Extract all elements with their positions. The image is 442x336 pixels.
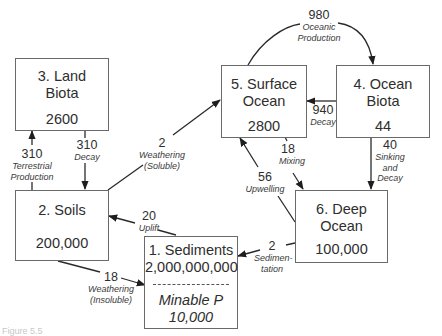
flux-desc-line2: and bbox=[372, 163, 408, 174]
reservoir-value: 100,000 bbox=[296, 241, 387, 257]
flux-desc-line2: Production bbox=[293, 33, 345, 44]
flux-desc-line1: Sedimen- bbox=[254, 253, 290, 264]
reservoir-soils: 2. Soils 200,000 bbox=[15, 190, 109, 261]
reservoir-land-biota: 3. Land Biota 2600 bbox=[15, 58, 109, 131]
flux-label-weathering-insoluble: 18 Weathering (Insoluble) bbox=[85, 271, 137, 305]
reservoir-value: 2,000,000,000 bbox=[145, 259, 237, 275]
reservoir-name-line2: Ocean bbox=[320, 218, 363, 234]
figure-caption: Figure 5.5 bbox=[2, 326, 43, 336]
reservoir-name: 5. Surface Ocean bbox=[222, 76, 306, 110]
flux-desc-line1: Decay bbox=[70, 152, 104, 163]
flux-value: 980 bbox=[293, 9, 345, 22]
reservoir-name-line2: Biota bbox=[366, 93, 399, 109]
reservoir-deep-ocean: 6. Deep Ocean 100,000 bbox=[295, 190, 388, 263]
reservoir-name-line1: 5. Surface bbox=[231, 76, 297, 92]
flux-value: 2 bbox=[136, 137, 188, 150]
reservoir-value: 200,000 bbox=[16, 235, 108, 251]
reservoir-name-line1: 6. Deep bbox=[316, 201, 367, 217]
reservoir-value: 2800 bbox=[222, 118, 306, 134]
reservoir-name: 3. Land Biota bbox=[16, 68, 108, 102]
flux-value: 2 bbox=[254, 240, 290, 253]
flux-desc-line1: Uplift bbox=[134, 223, 164, 234]
flux-label-mixing: 18 Mixing bbox=[277, 143, 307, 167]
flux-desc-line1: Oceanic bbox=[293, 22, 345, 33]
reservoir-name-line2: Ocean bbox=[243, 93, 286, 109]
reservoir-sediments: 1. Sediments 2,000,000,000 Minable P 10,… bbox=[144, 236, 238, 329]
flux-value: 40 bbox=[372, 139, 408, 152]
dashed-separator bbox=[153, 284, 229, 285]
flux-value: 940 bbox=[308, 104, 338, 117]
flux-desc-line2: tation bbox=[254, 264, 290, 275]
flux-value: 20 bbox=[134, 210, 164, 223]
flux-value: 18 bbox=[85, 271, 137, 284]
flux-label-terrestrial-production: 310 Terrestrial Production bbox=[6, 148, 58, 182]
flux-label-oceanic-production: 980 Oceanic Production bbox=[293, 9, 345, 43]
flux-label-sedimentation: 2 Sedimen- tation bbox=[254, 240, 290, 274]
reservoir-value: 2600 bbox=[16, 111, 108, 127]
reservoir-name: 2. Soils bbox=[16, 202, 108, 219]
reservoir-name: 4. Ocean Biota bbox=[337, 76, 429, 110]
flux-label-sinking-decay: 40 Sinking and Decay bbox=[372, 139, 408, 184]
flux-label-weathering-soluble: 2 Weathering (Soluble) bbox=[136, 137, 188, 171]
minable-p-value: 10,000 bbox=[145, 309, 237, 325]
reservoir-name-line2: Biota bbox=[45, 85, 78, 101]
flux-desc-line1: Sinking bbox=[372, 152, 408, 163]
flux-label-land-decay: 310 Decay bbox=[70, 139, 104, 163]
flux-desc-line1: Weathering bbox=[136, 150, 188, 161]
minable-p-label: Minable P bbox=[145, 292, 237, 308]
flux-desc-line2: (Soluble) bbox=[136, 161, 188, 172]
flux-value: 18 bbox=[277, 143, 307, 156]
flux-desc-line2: (Insoluble) bbox=[85, 295, 137, 306]
reservoir-name: 1. Sediments bbox=[145, 242, 237, 259]
reservoir-name: 6. Deep Ocean bbox=[296, 201, 387, 235]
flux-desc-line1: Mixing bbox=[277, 156, 307, 167]
flux-desc-line2: Production bbox=[6, 172, 58, 183]
reservoir-surface-ocean: 5. Surface Ocean 2800 bbox=[221, 65, 307, 138]
flux-desc-line3: Decay bbox=[372, 173, 408, 184]
reservoir-ocean-biota: 4. Ocean Biota 44 bbox=[336, 65, 430, 138]
flux-label-upwelling: 56 Upwelling bbox=[245, 171, 285, 195]
flux-value: 310 bbox=[70, 139, 104, 152]
flux-desc-line1: Terrestrial bbox=[6, 161, 58, 172]
flux-desc-line1: Weathering bbox=[85, 284, 137, 295]
reservoir-name-line1: 3. Land bbox=[38, 68, 86, 84]
flux-value: 310 bbox=[6, 148, 58, 161]
flux-desc-line1: Decay bbox=[308, 117, 338, 128]
flux-label-uplift: 20 Uplift bbox=[134, 210, 164, 234]
reservoir-name-line1: 4. Ocean bbox=[354, 76, 413, 92]
flux-desc-line1: Upwelling bbox=[245, 184, 285, 195]
reservoir-value: 44 bbox=[337, 118, 429, 134]
flux-label-ocean-decay: 940 Decay bbox=[308, 104, 338, 128]
flux-value: 56 bbox=[245, 171, 285, 184]
